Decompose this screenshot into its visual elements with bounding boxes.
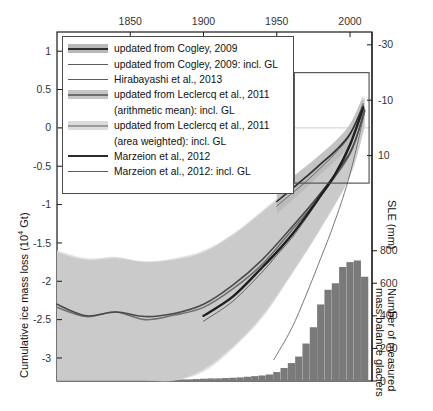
legend-label: Marzeion et al., 2012 [114, 150, 210, 163]
legend-swatch-icon [68, 88, 108, 101]
sle-axis-tick-label: 10 [378, 149, 390, 161]
bar-glacier-count [354, 260, 361, 381]
bar-glacier-count [207, 378, 214, 381]
legend-item-continuation: (area weighted): incl. GL [68, 133, 288, 148]
bar-glacier-count [324, 290, 331, 381]
bar-glacier-count [346, 262, 353, 381]
bar-glacier-count [361, 277, 368, 381]
x-axis-tick-label: 2000 [338, 15, 362, 27]
y-axis-tick-label: 0.5 [36, 83, 51, 95]
bar-glacier-count [185, 379, 192, 381]
bar-glacier-count [266, 374, 273, 381]
legend-item: updated from Leclercq et al., 2011 [68, 118, 288, 133]
x-axis-tick-label: 1950 [265, 15, 289, 27]
legend-item-continuation: (arithmetic mean): incl. GL [68, 103, 288, 118]
bar-glacier-count [193, 379, 200, 381]
bar-glacier-count [229, 378, 236, 381]
bar-glacier-count [317, 304, 324, 381]
legend-swatch-icon [68, 119, 108, 132]
bar-glacier-count [280, 368, 287, 381]
y-axis-tick-label: -3 [42, 352, 51, 364]
bar-glacier-count [288, 363, 295, 381]
x-axis-tick-label: 1850 [119, 15, 143, 27]
legend-label: updated from Leclercq et al., 2011 [114, 88, 270, 101]
x-axis-tick-label: 1900 [192, 15, 216, 27]
legend-swatch-icon [68, 58, 108, 71]
bar-glacier-count [251, 376, 258, 381]
y-axis-title: Cumulative ice mass loss (104 Gt) [16, 212, 30, 378]
legend-swatch-icon [68, 165, 108, 178]
bar-glacier-count [339, 267, 346, 381]
y-axis-tick-label: -2 [42, 275, 51, 287]
y-axis-tick-label: 0 [45, 121, 51, 133]
legend-swatch-icon [68, 73, 108, 86]
figure-container: 185019001950200010.50-0.5-1-1.5-2-2.5-31… [0, 0, 433, 411]
y-axis-tick-label: -0.5 [33, 160, 51, 172]
bar-glacier-count [295, 357, 302, 381]
bar-glacier-count [244, 377, 251, 381]
legend-item: Marzeion et al., 2012 [68, 149, 288, 164]
right-axis-sle-title: SLE (mm) [386, 200, 398, 250]
legend-label: Hirabayashi et al., 2013 [114, 73, 222, 86]
sle-axis-tick-label: -10 [378, 94, 393, 106]
bar-glacier-count [259, 375, 266, 381]
legend-item: Marzeion et al., 2012: incl. GL [68, 164, 288, 179]
legend-label: updated from Cogley, 2009: incl. GL [114, 58, 278, 71]
legend-swatch-icon [68, 42, 108, 55]
bar-glacier-count [310, 327, 317, 381]
bar-glacier-count [200, 379, 207, 381]
bar-glacier-count [273, 372, 280, 381]
legend: updated from Cogley, 2009updated from Co… [62, 36, 294, 194]
legend-swatch-icon [68, 150, 108, 163]
legend-label: Marzeion et al., 2012: incl. GL [114, 165, 251, 178]
y-axis-tick-label: -2.5 [33, 313, 51, 325]
legend-item: updated from Cogley, 2009 [68, 41, 288, 56]
y-axis-tick-label: -1 [42, 198, 51, 210]
bar-glacier-count [222, 378, 229, 381]
bar-glacier-count [302, 344, 309, 381]
sle-axis-tick-label: -30 [378, 38, 393, 50]
y-axis-tick-label: 1 [45, 45, 51, 57]
bar-glacier-count [237, 377, 244, 381]
legend-item: updated from Leclercq et al., 2011 [68, 87, 288, 102]
right-axis-glaciers-title-text: Number of measured mass balance glaciers [374, 288, 398, 397]
bar-glacier-count [215, 378, 222, 381]
legend-item: Hirabayashi et al., 2013 [68, 72, 288, 87]
right-axis-glaciers-title: Number of measured mass balance glaciers [374, 288, 398, 408]
legend-label-continued: (arithmetic mean): incl. GL [114, 104, 235, 117]
y-axis-tick-label: -1.5 [33, 237, 51, 249]
legend-label: updated from Leclercq et al., 2011 [114, 119, 270, 132]
bar-glacier-count [332, 283, 339, 381]
legend-label: updated from Cogley, 2009 [114, 42, 237, 55]
legend-label-continued: (area weighted): incl. GL [114, 135, 226, 148]
legend-item: updated from Cogley, 2009: incl. GL [68, 56, 288, 71]
